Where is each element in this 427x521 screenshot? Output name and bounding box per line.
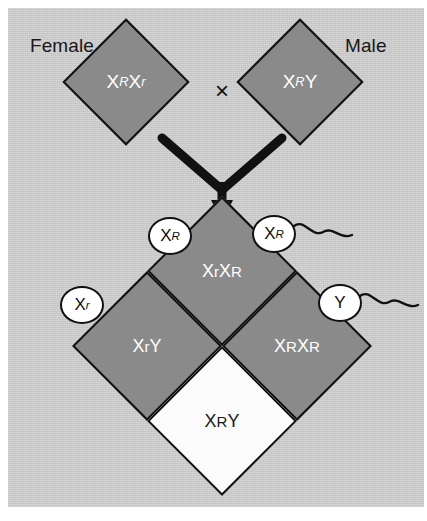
male-allele-1-base: X [283,71,296,93]
gamete-sperm-xr-dominant-base: X [264,224,275,244]
male-parent-label: Male [345,35,387,57]
gamete-egg-xr-recessive-base: X [74,295,85,315]
female-allele-1-base: X [106,71,119,93]
offspring-bottom-base-2: Y [150,336,162,357]
punnett-square-figure: Female Male XRXr × XRY XR XR Xr Y [8,8,424,507]
female-parent-label: Female [30,35,94,57]
offspring-top-base-1: X [274,336,286,357]
offspring-top-sup-2: R [309,338,320,355]
gamete-sperm-xr-dominant: XR [252,215,296,253]
gamete-egg-xr-dominant-base: X [160,226,171,246]
male-parent-genotype: XRY [257,39,343,125]
cross-symbol: × [207,76,237,106]
offspring-bottom-base-1: X [133,336,145,357]
offspring-left-base-2: X [219,261,231,282]
offspring-left-base-1: X [202,261,214,282]
sperm-tail-icon [292,216,354,250]
offspring-top-sup-1: R [286,338,297,355]
offspring-genotype-right: XRY [171,370,273,472]
sperm-tail-icon [358,286,420,320]
gamete-sperm-y-base: Y [334,293,345,313]
offspring-right-base-1: X [205,410,217,431]
offspring-left-sup-2: R [231,263,242,280]
offspring-right-sup-1: R [217,412,228,429]
offspring-top-base-2: X [297,336,309,357]
offspring-punnett-grid: XrXR XRXR XrY XRY [72,196,372,496]
female-parent-genotype: XRXr [83,39,169,125]
female-allele-2-base: X [129,71,142,93]
gamete-egg-xr-recessive: Xr [60,286,104,324]
offspring-right-base-2: Y [227,410,239,431]
gamete-sperm-y: Y [318,284,362,322]
male-allele-2-base: Y [305,71,318,93]
gamete-egg-xr-dominant: XR [148,217,192,255]
